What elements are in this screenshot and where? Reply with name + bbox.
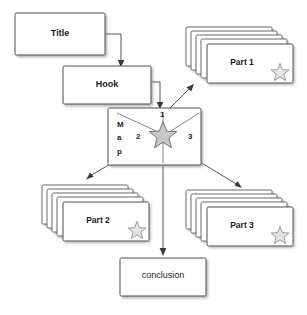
card-stack-part3[interactable]	[186, 190, 293, 246]
box-hook[interactable]	[63, 66, 151, 104]
box-conclusion[interactable]	[120, 258, 206, 296]
connector-map-to-part2	[86, 163, 112, 180]
connector-hook-to-map	[151, 82, 163, 109]
box-title[interactable]	[15, 13, 105, 55]
connector-map-to-part3	[200, 162, 242, 188]
connector-title-to-hook	[105, 34, 124, 67]
card-stack-part1[interactable]	[186, 27, 293, 83]
diagram-canvas: Title Hook conclusion M a p 1 2 3 Part 1…	[0, 0, 307, 315]
card-stack-part2[interactable]	[42, 185, 149, 241]
diagram-vector-layer	[0, 0, 307, 315]
